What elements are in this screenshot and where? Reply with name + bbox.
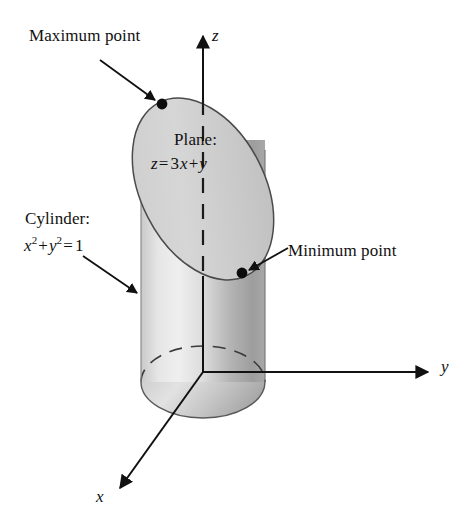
cylinder-eq-var-y: y <box>49 236 57 255</box>
cylinder-equation: x2+y2=1 <box>24 230 85 256</box>
cylinder-label-arrow <box>83 256 137 293</box>
cylinder-eq-value: 1 <box>74 236 85 255</box>
plane-eq-var-x: x <box>180 154 188 173</box>
minimum-point-marker <box>237 268 248 279</box>
plane-equation: z=3x+y <box>151 154 207 174</box>
maximum-point-arrow <box>100 60 155 100</box>
figure-container: Maximum point Cylinder: x2+y2=1 Plane: z… <box>0 0 468 529</box>
plane-eq-var-y: y <box>199 154 207 173</box>
cylinder-eq-var-x: x <box>24 236 32 255</box>
maximum-point-label: Maximum point <box>29 26 140 46</box>
plane-eq-coefficient: 3 <box>169 154 180 173</box>
diagram-canvas <box>0 0 468 529</box>
cylinder-bottom-cap <box>141 382 265 418</box>
minimum-point-label: Minimum point <box>288 241 397 261</box>
x-axis-label: x <box>96 487 104 507</box>
plane-label: Plane: <box>174 130 217 150</box>
plane-eq-plus: + <box>188 154 200 173</box>
plane-eq-equals: = <box>158 154 170 173</box>
cylinder-eq-equals: = <box>62 236 74 255</box>
cylinder-eq-plus: + <box>37 236 49 255</box>
maximum-point-marker <box>157 99 168 110</box>
y-axis-label: y <box>441 357 449 377</box>
z-axis-label: z <box>212 26 219 46</box>
cylinder-label: Cylinder: <box>25 209 90 229</box>
plane-eq-lhs: z <box>151 154 158 173</box>
